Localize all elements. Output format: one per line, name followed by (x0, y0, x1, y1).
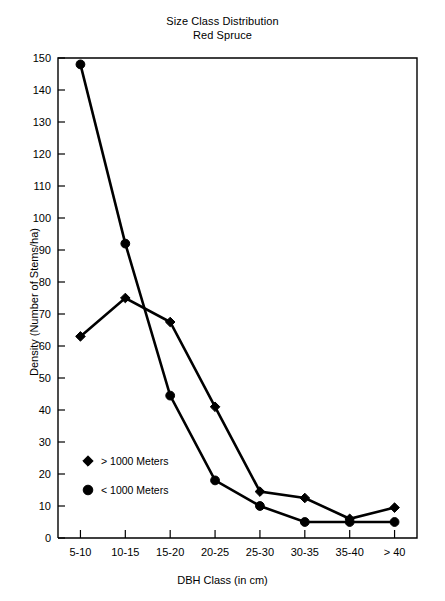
legend-label: > 1000 Meters (101, 455, 168, 467)
x-tick-label: 30-35 (291, 546, 319, 558)
series-line-circle (80, 64, 394, 522)
data-point-circle (166, 391, 175, 400)
x-tick-label: 10-15 (111, 546, 139, 558)
x-axis-ticks: 5-1010-1515-2020-2525-3030-3535-40> 40 (69, 530, 405, 558)
data-point-circle (300, 518, 309, 527)
y-tick-label: 120 (33, 148, 51, 160)
data-point-diamond (255, 487, 265, 497)
y-tick-label: 130 (33, 116, 51, 128)
legend-marker-diamond (83, 456, 93, 466)
y-tick-label: 30 (39, 436, 51, 448)
y-tick-label: 20 (39, 468, 51, 480)
chart-legend: > 1000 Meters< 1000 Meters (83, 455, 169, 496)
legend-label: < 1000 Meters (101, 484, 168, 496)
data-point-circle (345, 518, 354, 527)
data-point-diamond (390, 503, 400, 513)
data-point-circle (211, 476, 220, 485)
y-tick-label: 110 (33, 180, 51, 192)
data-point-circle (256, 502, 265, 511)
data-point-circle (76, 60, 85, 69)
data-point-diamond (210, 402, 220, 412)
y-tick-label: 100 (33, 212, 51, 224)
x-tick-label: 25-30 (246, 546, 274, 558)
y-axis-ticks: 0102030405060708090100110120130140150 (33, 52, 65, 544)
data-point-diamond (300, 493, 310, 503)
y-tick-label: 80 (39, 276, 51, 288)
x-tick-label: 15-20 (156, 546, 184, 558)
legend-marker-circle (83, 485, 93, 495)
y-tick-label: 10 (39, 500, 51, 512)
chart-figure: Size Class Distribution Red Spruce Densi… (0, 0, 445, 601)
y-tick-label: 40 (39, 404, 51, 416)
data-point-diamond (165, 317, 175, 327)
data-point-circle (121, 239, 130, 248)
y-tick-label: 90 (39, 244, 51, 256)
plot-area: 0102030405060708090100110120130140150 5-… (0, 0, 445, 601)
data-point-circle (390, 518, 399, 527)
x-tick-label: 5-10 (69, 546, 91, 558)
y-tick-label: 150 (33, 52, 51, 64)
x-tick-label: 35-40 (336, 546, 364, 558)
y-tick-label: 0 (45, 532, 51, 544)
x-tick-label: > 40 (384, 546, 406, 558)
y-tick-label: 140 (33, 84, 51, 96)
x-tick-label: 20-25 (201, 546, 229, 558)
y-tick-label: 50 (39, 372, 51, 384)
y-tick-label: 60 (39, 340, 51, 352)
y-tick-label: 70 (39, 308, 51, 320)
